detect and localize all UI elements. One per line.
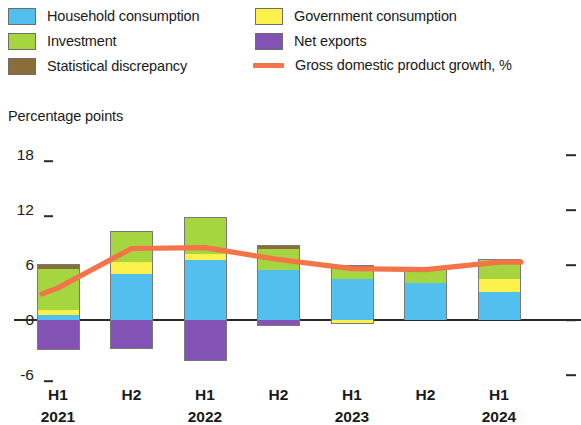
x-axis-year-label-2024: 2024: [464, 408, 534, 425]
x-axis-period-label-4: H1: [322, 386, 382, 404]
x-axis-year-label-2023: 2023: [317, 408, 387, 425]
bar-segment-government-consumption: [37, 310, 80, 316]
bar-segment-government-consumption: [184, 254, 227, 260]
y-tick-label--6: -6: [0, 366, 34, 384]
bar-segment-government-consumption: [110, 262, 153, 274]
y-tick-mark-left-18: [44, 160, 53, 162]
chart-plot-area: 181260-6 H1H2H1H2H1H2H12021202220232024: [0, 0, 581, 425]
bar-segment-statistical-discrepancy: [331, 265, 374, 267]
bar-segment-neg-government-consumption: [331, 320, 374, 324]
bar-segment-investment: [331, 267, 374, 279]
bar-segment-neg-net-exports: [37, 320, 80, 350]
y-tick-label-12: 12: [0, 201, 34, 219]
y-tick-mark-left-12: [44, 215, 53, 217]
x-axis-period-label-2: H1: [175, 386, 235, 404]
x-axis-period-label-1: H2: [102, 386, 162, 404]
bar-segment-household-consumption: [257, 270, 300, 320]
bar-segment-household-consumption: [404, 283, 447, 320]
bar-segment-household-consumption: [331, 279, 374, 320]
bar-segment-neg-statistical-discrepancy: [110, 348, 153, 350]
x-axis-period-label-5: H2: [396, 386, 456, 404]
bar-segment-investment: [404, 269, 447, 284]
y-tick-mark-right-6: [566, 264, 576, 266]
x-axis-period-label-0: H1: [28, 386, 88, 404]
x-axis-year-label-2021: 2021: [23, 408, 93, 425]
bar-segment-neg-net-exports: [184, 320, 227, 361]
y-tick-label-6: 6: [0, 256, 34, 274]
x-axis-period-label-3: H2: [249, 386, 309, 404]
bar-segment-household-consumption: [110, 274, 153, 320]
bar-segment-statistical-discrepancy: [257, 245, 300, 250]
bar-segment-investment: [257, 249, 300, 269]
bar-segment-statistical-discrepancy: [37, 264, 80, 269]
x-axis-year-label-2022: 2022: [170, 408, 240, 425]
bar-segment-statistical-discrepancy: [478, 259, 521, 261]
bar-segment-investment: [478, 260, 521, 278]
gdp-growth-line: [0, 0, 581, 425]
x-axis-period-label-6: H1: [469, 386, 529, 404]
y-tick-label-18: 18: [0, 146, 34, 164]
bar-segment-investment: [110, 231, 153, 262]
bar-segment-government-consumption: [478, 279, 521, 293]
y-tick-mark-right-18: [566, 154, 576, 156]
bar-segment-neg-net-exports: [257, 320, 300, 326]
bar-segment-investment: [37, 269, 80, 310]
bar-segment-neg-net-exports: [110, 320, 153, 348]
bar-segment-investment: [184, 217, 227, 254]
y-tick-mark-left--6: [44, 380, 53, 382]
bar-segment-household-consumption: [478, 292, 521, 320]
bar-segment-household-consumption: [184, 260, 227, 320]
y-tick-mark-right-12: [566, 209, 576, 211]
y-tick-mark-right--6: [566, 374, 576, 376]
